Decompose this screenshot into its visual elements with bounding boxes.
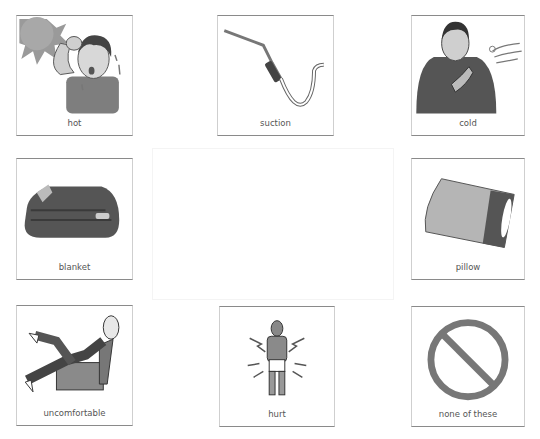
card-label: pillow bbox=[412, 262, 524, 272]
card-suction[interactable]: suction bbox=[217, 15, 334, 136]
pillow-icon bbox=[412, 159, 524, 257]
card-label: cold bbox=[412, 118, 524, 128]
blanket-icon bbox=[17, 159, 132, 257]
card-hot[interactable]: hot bbox=[16, 15, 133, 136]
card-label: hurt bbox=[220, 409, 334, 419]
card-label: suction bbox=[218, 118, 333, 128]
empty-center-area bbox=[152, 148, 394, 300]
card-label: blanket bbox=[17, 262, 132, 272]
hot-person-icon bbox=[17, 16, 132, 114]
hurt-person-icon bbox=[220, 307, 334, 405]
card-cold[interactable]: cold bbox=[411, 15, 525, 136]
card-label: uncomfortable bbox=[17, 408, 132, 418]
card-pillow[interactable]: pillow bbox=[411, 158, 525, 280]
card-uncomfortable[interactable]: uncomfortable bbox=[16, 305, 133, 426]
card-label: none of these bbox=[412, 409, 524, 419]
uncomfortable-person-icon bbox=[17, 306, 132, 404]
prohibited-icon bbox=[412, 307, 524, 405]
cold-person-icon bbox=[412, 16, 524, 114]
card-none-of-these[interactable]: none of these bbox=[411, 306, 525, 427]
card-blanket[interactable]: blanket bbox=[16, 158, 133, 280]
card-label: hot bbox=[17, 118, 132, 128]
suction-tube-icon bbox=[218, 16, 333, 114]
card-hurt[interactable]: hurt bbox=[219, 306, 335, 427]
